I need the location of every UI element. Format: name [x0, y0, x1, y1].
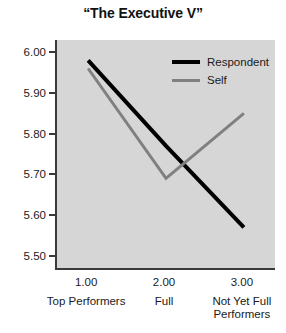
x-tick-group: 3.00Not Yet Full Performers	[193, 276, 286, 321]
chart-figure: “The Executive V” 6.005.905.805.705.605.…	[0, 0, 286, 333]
legend-label: Self	[207, 74, 227, 86]
plot-area	[55, 40, 275, 270]
legend-label: Respondent	[207, 56, 269, 68]
legend-item-self[interactable]: Self	[172, 74, 227, 86]
chart-title: “The Executive V”	[0, 5, 286, 21]
x-tick-category: Not Yet Full Performers	[193, 295, 286, 321]
y-tick-label: 5.80	[4, 128, 46, 140]
y-tick-label: 5.70	[4, 168, 46, 180]
legend-swatch-icon	[172, 79, 200, 82]
y-tick-label: 6.00	[4, 46, 46, 58]
series-plot	[57, 40, 275, 268]
legend-swatch-icon	[172, 60, 200, 64]
y-tick-label: 5.50	[4, 250, 46, 262]
y-tick-label: 5.90	[4, 87, 46, 99]
legend-item-respondent[interactable]: Respondent	[172, 56, 269, 68]
x-tick-value: 3.00	[193, 276, 286, 289]
y-tick-label: 5.60	[4, 209, 46, 221]
